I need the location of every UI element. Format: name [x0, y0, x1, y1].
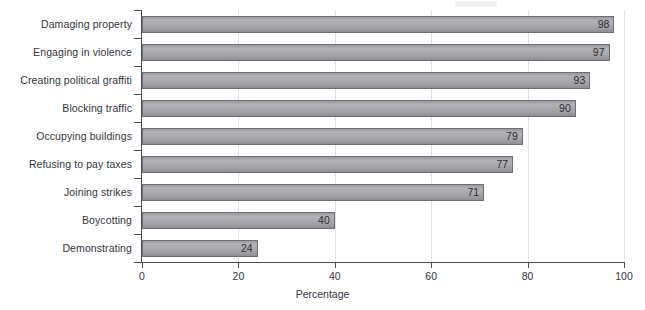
category-label: Damaging property [0, 19, 132, 30]
x-axis-tick-100 [624, 262, 625, 268]
x-axis-tick-60 [431, 262, 432, 268]
x-axis-tick-label: 40 [329, 271, 341, 282]
category-label: Refusing to pay taxes [0, 159, 132, 170]
bar: 40 [142, 212, 335, 229]
bar-value-label: 98 [598, 19, 610, 30]
bar-value-label: 97 [593, 47, 605, 58]
x-axis-tick-label: 0 [139, 271, 145, 282]
y-axis-tick [134, 206, 142, 207]
plot-area: 989793907977714024 [142, 10, 624, 262]
x-axis-tick-label: 80 [522, 271, 534, 282]
y-axis-tick [134, 66, 142, 67]
x-axis-tick-label: 20 [233, 271, 245, 282]
bar: 71 [142, 184, 484, 201]
bar-value-label: 77 [496, 159, 508, 170]
gridline-x-100 [624, 10, 625, 262]
scan-artifact [455, 1, 497, 7]
bar: 79 [142, 128, 523, 145]
category-axis: Damaging propertyEngaging in violenceCre… [0, 10, 132, 262]
x-axis-tick-40 [335, 262, 336, 268]
bar-chart: Damaging propertyEngaging in violenceCre… [0, 0, 645, 310]
y-axis-tick [134, 94, 142, 95]
bar: 24 [142, 240, 258, 257]
bar-value-label: 93 [574, 75, 586, 86]
category-label: Boycotting [0, 215, 132, 226]
x-axis-tick-label: 100 [615, 271, 633, 282]
x-axis-line [141, 262, 625, 263]
y-axis-line [141, 10, 142, 263]
bar: 90 [142, 100, 576, 117]
category-label: Creating political graffiti [0, 75, 132, 86]
x-axis-tick-label: 60 [425, 271, 437, 282]
bar-value-label: 71 [468, 187, 480, 198]
y-axis-tick [134, 234, 142, 235]
category-label: Engaging in violence [0, 47, 132, 58]
bar: 97 [142, 44, 610, 61]
bar: 98 [142, 16, 614, 33]
bar: 77 [142, 156, 513, 173]
category-label: Demonstrating [0, 243, 132, 254]
x-axis-tick-20 [238, 262, 239, 268]
x-axis-tick-80 [528, 262, 529, 268]
bar-value-label: 40 [318, 215, 330, 226]
y-axis-tick [134, 178, 142, 179]
bar: 93 [142, 72, 590, 89]
y-axis-tick [134, 122, 142, 123]
y-axis-tick [134, 10, 142, 11]
category-label: Blocking traffic [0, 103, 132, 114]
category-label: Occupying buildings [0, 131, 132, 142]
y-axis-tick [134, 38, 142, 39]
bar-value-label: 90 [559, 103, 571, 114]
y-axis-tick [134, 262, 142, 263]
category-label: Joining strikes [0, 187, 132, 198]
bar-value-label: 79 [506, 131, 518, 142]
bar-value-label: 24 [241, 243, 253, 254]
x-axis-title: Percentage [0, 288, 645, 300]
y-axis-tick [134, 150, 142, 151]
x-axis-tick-0 [142, 262, 143, 268]
